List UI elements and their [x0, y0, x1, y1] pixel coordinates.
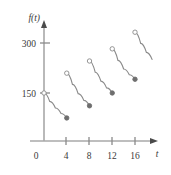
curve-segment-5	[135, 32, 152, 59]
x-axis-arrowhead	[150, 138, 158, 144]
y-axis-label: f(t)	[28, 13, 40, 24]
x-tick-label-8: 8	[87, 151, 92, 161]
open-endpoint-segment-5	[133, 30, 137, 34]
closed-endpoint-segment-2	[87, 104, 91, 108]
x-axis-label: t	[156, 149, 159, 159]
graph-canvas: f(t) t 300 150 0 4 8 12 16	[0, 0, 171, 175]
curve-segment-2	[67, 73, 90, 106]
open-endpoint-segment-3	[87, 59, 91, 63]
curve-segment-1	[44, 93, 67, 118]
x-tick-label-16: 16	[130, 151, 140, 161]
x-tick-label-12: 12	[107, 151, 117, 161]
curve-segments-group	[42, 30, 152, 120]
curve-segment-4	[112, 49, 135, 79]
figure-container: f(t) t 300 150 0 4 8 12 16	[0, 0, 171, 175]
curve-segment-3	[90, 61, 113, 93]
open-endpoint-segment-4	[110, 47, 114, 51]
origin-label: 0	[34, 151, 39, 161]
open-endpoint-segment-1	[42, 91, 46, 95]
y-tick-label-150: 150	[22, 89, 37, 99]
closed-endpoint-segment-4	[133, 77, 137, 81]
y-axis-arrowhead	[41, 20, 47, 28]
closed-endpoint-segment-1	[65, 116, 69, 120]
closed-endpoint-segment-3	[110, 91, 114, 95]
open-endpoint-segment-2	[65, 71, 69, 75]
y-tick-label-300: 300	[22, 39, 37, 49]
x-tick-label-4: 4	[64, 151, 69, 161]
